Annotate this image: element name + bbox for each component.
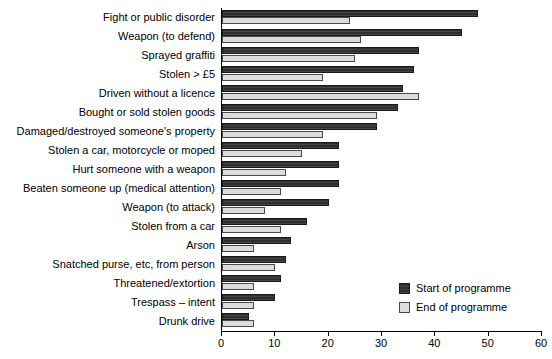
bar-end-of-programme: [222, 245, 254, 252]
category-label-row: Driven without a licence: [99, 84, 215, 103]
bar-chart: Fight or public disorderWeapon (to defen…: [0, 0, 552, 359]
category-label: Trespass – intent: [131, 296, 215, 308]
category-label-row: Threatened/extortion: [113, 273, 215, 292]
bar-group: [222, 254, 542, 273]
bar-group: [222, 27, 542, 46]
legend-label-end: End of programme: [416, 301, 507, 313]
category-label: Stolen a car, motorcycle or moped: [48, 144, 215, 156]
bar-start-of-programme: [222, 85, 403, 92]
category-label: Driven without a licence: [99, 87, 215, 99]
x-axis-tick-label: 30: [361, 337, 401, 350]
category-label-row: Bought or sold stolen goods: [79, 103, 215, 122]
bar-end-of-programme: [222, 169, 286, 176]
category-label: Hurt someone with a weapon: [73, 163, 215, 175]
bar-end-of-programme: [222, 112, 377, 119]
x-axis-tick: [488, 332, 489, 336]
category-label-row: Stolen > £5: [159, 65, 215, 84]
category-label-row: Hurt someone with a weapon: [73, 160, 215, 179]
legend-swatch-end-icon: [399, 302, 410, 313]
category-label-row: Snatched purse, etc, from person: [52, 254, 215, 273]
bar-start-of-programme: [222, 218, 307, 225]
y-axis-line: [221, 8, 222, 332]
bar-end-of-programme: [222, 207, 265, 214]
category-label: Arson: [186, 239, 215, 251]
x-axis-tick: [328, 332, 329, 336]
x-axis-tick: [541, 332, 542, 336]
category-label: Sprayed graffiti: [141, 49, 215, 61]
bar-end-of-programme: [222, 150, 302, 157]
bar-group: [222, 197, 542, 216]
bar-start-of-programme: [222, 66, 414, 73]
bar-start-of-programme: [222, 256, 286, 263]
bar-group: [222, 141, 542, 160]
bar-start-of-programme: [222, 29, 462, 36]
bar-start-of-programme: [222, 237, 291, 244]
category-label: Weapon (to defend): [118, 30, 215, 42]
category-label: Snatched purse, etc, from person: [52, 258, 215, 270]
bar-group: [222, 216, 542, 235]
category-label-row: Fight or public disorder: [103, 8, 215, 27]
category-label: Threatened/extortion: [113, 277, 215, 289]
category-label-row: Weapon (to defend): [118, 27, 215, 46]
bar-end-of-programme: [222, 264, 275, 271]
bar-end-of-programme: [222, 283, 254, 290]
bar-start-of-programme: [222, 199, 329, 206]
category-label: Stolen from a car: [131, 220, 215, 232]
bar-end-of-programme: [222, 131, 323, 138]
category-label: Damaged/destroyed someone's property: [17, 125, 215, 137]
category-label-row: Beaten someone up (medical attention): [23, 178, 215, 197]
bar-start-of-programme: [222, 47, 419, 54]
x-axis-tick: [434, 332, 435, 336]
category-label: Fight or public disorder: [103, 11, 215, 23]
category-label-row: Trespass – intent: [131, 292, 215, 311]
x-axis-tick-label: 0: [201, 337, 241, 350]
bar-start-of-programme: [222, 294, 275, 301]
category-label-row: Arson: [186, 235, 215, 254]
category-label-row: Stolen from a car: [131, 216, 215, 235]
bar-start-of-programme: [222, 104, 398, 111]
x-axis-tick-label: 60: [521, 337, 552, 350]
category-label: Bought or sold stolen goods: [79, 106, 215, 118]
bar-start-of-programme: [222, 180, 339, 187]
bar-start-of-programme: [222, 275, 281, 282]
x-axis-tick-label: 40: [414, 337, 454, 350]
category-label-row: Weapon (to attack): [122, 197, 215, 216]
category-label: Weapon (to attack): [122, 201, 215, 213]
bar-end-of-programme: [222, 188, 281, 195]
bar-end-of-programme: [222, 226, 281, 233]
chart-legend: Start of programme End of programme: [399, 282, 511, 320]
category-label: Drunk drive: [159, 315, 215, 327]
category-label-row: Stolen a car, motorcycle or moped: [48, 141, 215, 160]
category-label-row: Damaged/destroyed someone's property: [17, 122, 215, 141]
bar-group: [222, 122, 542, 141]
x-axis-tick: [381, 332, 382, 336]
category-label-row: Drunk drive: [159, 311, 215, 330]
bar-end-of-programme: [222, 55, 355, 62]
category-label: Stolen > £5: [159, 68, 215, 80]
category-axis-labels: Fight or public disorderWeapon (to defen…: [0, 8, 218, 330]
bar-start-of-programme: [222, 161, 339, 168]
legend-swatch-start-icon: [399, 283, 410, 294]
bar-end-of-programme: [222, 17, 350, 24]
bar-group: [222, 103, 542, 122]
bar-start-of-programme: [222, 142, 339, 149]
category-label-row: Sprayed graffiti: [141, 46, 215, 65]
bar-end-of-programme: [222, 320, 254, 327]
bar-start-of-programme: [222, 123, 377, 130]
bar-group: [222, 8, 542, 27]
bar-end-of-programme: [222, 74, 323, 81]
x-axis-tick-label: 20: [308, 337, 348, 350]
bar-group: [222, 65, 542, 84]
x-axis-tick-label: 50: [468, 337, 508, 350]
bar-start-of-programme: [222, 313, 249, 320]
bar-start-of-programme: [222, 10, 478, 17]
bar-group: [222, 178, 542, 197]
legend-item-start: Start of programme: [399, 282, 511, 294]
legend-item-end: End of programme: [399, 301, 511, 313]
bar-group: [222, 235, 542, 254]
x-axis-tick: [274, 332, 275, 336]
bar-end-of-programme: [222, 36, 361, 43]
bar-end-of-programme: [222, 302, 254, 309]
bar-group: [222, 46, 542, 65]
bar-end-of-programme: [222, 93, 419, 100]
